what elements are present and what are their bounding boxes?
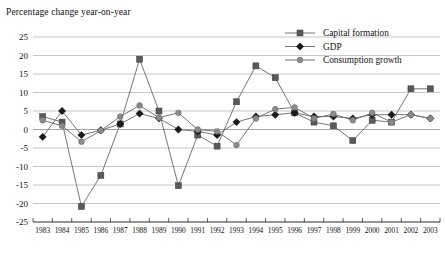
data-point-marker bbox=[253, 116, 259, 122]
data-point-marker bbox=[272, 75, 278, 81]
data-point-marker bbox=[233, 118, 240, 125]
x-axis-tick-label: 1992 bbox=[210, 226, 225, 235]
data-point-marker bbox=[137, 56, 143, 62]
data-point-marker bbox=[350, 138, 356, 144]
data-point-marker bbox=[297, 57, 303, 63]
data-point-marker bbox=[214, 143, 220, 149]
x-axis-tick-label: 1986 bbox=[93, 226, 108, 235]
y-axis-tick-label: 25 bbox=[19, 32, 29, 42]
data-point-marker bbox=[427, 116, 433, 122]
data-point-marker bbox=[427, 86, 433, 92]
data-point-marker bbox=[331, 111, 337, 117]
x-axis-tick-label: 2000 bbox=[365, 226, 380, 235]
data-point-marker bbox=[272, 106, 278, 112]
x-axis-tick-label: 1991 bbox=[190, 226, 205, 235]
data-point-marker bbox=[117, 114, 123, 120]
data-point-marker bbox=[78, 203, 84, 209]
data-point-marker bbox=[234, 99, 240, 105]
data-point-marker bbox=[234, 142, 240, 148]
x-axis-tick-label: 1996 bbox=[287, 226, 302, 235]
data-point-marker bbox=[389, 119, 395, 125]
y-axis-tick-label: -25 bbox=[16, 217, 28, 227]
data-point-marker bbox=[292, 104, 298, 110]
x-axis-tick-label: 1989 bbox=[152, 226, 167, 235]
x-axis-tick-label: 1984 bbox=[55, 226, 70, 235]
data-point-marker bbox=[156, 115, 162, 121]
data-point-marker bbox=[408, 86, 414, 92]
y-axis-tick-label: -10 bbox=[16, 162, 28, 172]
data-point-marker bbox=[79, 139, 85, 145]
x-axis-tick-label: 2001 bbox=[384, 226, 399, 235]
data-point-marker bbox=[350, 117, 356, 123]
chart-container: Percentage change year-on-year 252015105… bbox=[0, 0, 446, 253]
x-axis-tick-label: 2003 bbox=[423, 226, 438, 235]
data-point-marker bbox=[253, 63, 259, 69]
legend-label: Capital formation bbox=[323, 28, 389, 38]
legend-label: GDP bbox=[323, 42, 342, 52]
data-point-marker bbox=[296, 43, 303, 50]
x-axis-tick-label: 1985 bbox=[74, 226, 89, 235]
y-axis-tick-label: 0 bbox=[24, 125, 29, 135]
legend-item[interactable]: Consumption growth bbox=[285, 55, 402, 65]
x-axis-tick-label: 1997 bbox=[307, 226, 322, 235]
data-point-marker bbox=[330, 123, 336, 129]
data-point-marker bbox=[40, 117, 46, 123]
data-point-marker bbox=[175, 183, 181, 189]
x-axis-tick-label: 1983 bbox=[35, 226, 50, 235]
data-point-marker bbox=[39, 133, 46, 140]
data-point-marker bbox=[98, 128, 104, 134]
x-axis-tick-label: 1990 bbox=[171, 226, 186, 235]
y-axis-tick-label: 10 bbox=[19, 88, 29, 98]
data-point-marker bbox=[59, 123, 65, 129]
data-point-marker bbox=[195, 127, 201, 133]
x-axis-tick-label: 1999 bbox=[345, 226, 360, 235]
y-axis-tick-label: 20 bbox=[19, 51, 29, 61]
y-axis-tick-label: -20 bbox=[16, 199, 28, 209]
data-point-marker bbox=[214, 128, 220, 134]
y-axis-tick-label: -5 bbox=[21, 143, 29, 153]
data-point-marker bbox=[369, 110, 375, 116]
x-axis-tick-label: 1993 bbox=[229, 226, 244, 235]
data-point-marker bbox=[297, 30, 303, 36]
data-point-marker bbox=[408, 112, 414, 118]
data-point-marker bbox=[175, 110, 181, 116]
data-point-marker bbox=[175, 126, 182, 133]
data-point-marker bbox=[156, 108, 162, 114]
legend-item[interactable]: GDP bbox=[285, 42, 342, 52]
x-axis-tick-label: 1995 bbox=[268, 226, 283, 235]
x-axis-tick-label: 1994 bbox=[248, 226, 263, 235]
y-axis-tick-label: 15 bbox=[19, 69, 29, 79]
x-axis-tick-label: 2002 bbox=[404, 226, 419, 235]
x-axis-tick-label: 1988 bbox=[132, 226, 147, 235]
data-point-marker bbox=[98, 172, 104, 178]
legend-label: Consumption growth bbox=[323, 55, 402, 65]
y-axis-tick-label: -15 bbox=[16, 180, 28, 190]
x-axis-tick-label: 1998 bbox=[326, 226, 341, 235]
line-chart-plot: 2520151050-5-10-15-20-251983198419851986… bbox=[0, 0, 446, 253]
y-axis-tick-label: 5 bbox=[24, 106, 29, 116]
data-point-marker bbox=[311, 116, 317, 122]
x-axis-tick-label: 1987 bbox=[113, 226, 128, 235]
data-point-marker bbox=[137, 103, 143, 109]
